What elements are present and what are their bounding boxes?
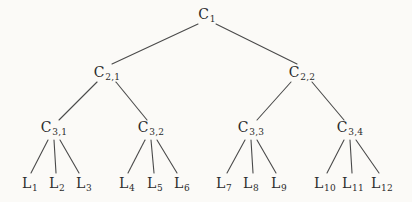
node-base-label: C xyxy=(94,64,105,80)
tree-edge-C3-4-L10 xyxy=(327,140,344,173)
tree-node-L7: L7 xyxy=(216,176,232,193)
node-subscript: 2 xyxy=(59,183,65,193)
node-base-label: L xyxy=(271,175,281,191)
tree-node-C1: C1 xyxy=(198,7,215,24)
node-base-label: L xyxy=(216,175,226,191)
tree-node-C2-1: C2,1 xyxy=(94,65,120,82)
node-subscript: 1 xyxy=(32,183,38,193)
node-subscript: 9 xyxy=(281,183,287,193)
tree-edge-C3-3-L8 xyxy=(251,140,253,173)
node-base-label: L xyxy=(314,175,324,191)
tree-edge-C3-1-L2 xyxy=(54,140,56,173)
node-subscript: 10 xyxy=(324,183,336,193)
node-base-label: L xyxy=(49,175,59,191)
tree-edge-C1-C2-1 xyxy=(112,24,198,64)
node-base-label: C xyxy=(198,6,209,22)
tree-node-C3-4: C3,4 xyxy=(337,120,363,137)
tree-node-L2: L2 xyxy=(49,176,65,193)
node-base-label: C xyxy=(289,64,300,80)
tree-edge-C2-2-C3-4 xyxy=(312,82,344,120)
tree-node-C3-3: C3,3 xyxy=(238,120,264,137)
tree-edge-C3-2-L5 xyxy=(151,140,154,173)
node-base-label: L xyxy=(119,175,129,191)
node-subscript: 12 xyxy=(381,183,393,193)
tree-node-L1: L1 xyxy=(22,176,38,193)
tree-node-L8: L8 xyxy=(243,176,259,193)
node-subscript: 4 xyxy=(129,183,135,193)
node-subscript: 5 xyxy=(157,183,163,193)
tree-node-L4: L4 xyxy=(119,176,135,193)
node-subscript: 3,2 xyxy=(149,127,164,137)
node-subscript: 6 xyxy=(184,183,190,193)
tree-node-L6: L6 xyxy=(174,176,190,193)
tree-edge-C3-4-L12 xyxy=(356,140,379,173)
tree-node-C3-2: C3,2 xyxy=(138,120,164,137)
node-subscript: 3,1 xyxy=(52,127,67,137)
tree-edge-C1-C2-2 xyxy=(216,24,297,64)
node-base-label: L xyxy=(76,175,86,191)
tree-node-L12: L12 xyxy=(371,176,393,193)
tree-node-L5: L5 xyxy=(147,176,163,193)
node-subscript: 11 xyxy=(352,183,364,193)
tree-edge-C2-1-C3-1 xyxy=(59,82,97,120)
tree-node-C3-1: C3,1 xyxy=(41,120,67,137)
tree-edge-C3-2-L4 xyxy=(128,140,145,173)
node-base-label: L xyxy=(174,175,184,191)
node-base-label: L xyxy=(342,175,352,191)
tree-edge-C3-2-L6 xyxy=(157,140,177,173)
node-subscript: 7 xyxy=(226,183,232,193)
node-subscript: 1 xyxy=(210,14,216,24)
tree-node-L10: L10 xyxy=(314,176,336,193)
tree-edge-C2-1-C3-2 xyxy=(116,82,147,120)
node-base-label: L xyxy=(243,175,253,191)
tree-node-C2-2: C2,2 xyxy=(289,65,315,82)
node-base-label: C xyxy=(41,119,52,135)
node-base-label: L xyxy=(22,175,32,191)
node-subscript: 2,1 xyxy=(105,72,120,82)
node-subscript: 2,2 xyxy=(300,72,315,82)
tree-node-L11: L11 xyxy=(342,176,364,193)
node-subscript: 3,4 xyxy=(348,127,363,137)
tree-edges-layer xyxy=(0,0,412,202)
node-base-label: C xyxy=(337,119,348,135)
tree-edge-C3-4-L11 xyxy=(350,140,352,173)
tree-edge-C3-3-L9 xyxy=(257,140,276,173)
tree-edge-C3-1-L3 xyxy=(60,140,79,173)
tree-edge-C3-3-L7 xyxy=(227,140,245,173)
node-subscript: 3,3 xyxy=(249,127,264,137)
node-base-label: L xyxy=(371,175,381,191)
tree-edge-C2-2-C3-3 xyxy=(257,82,291,120)
tree-node-L9: L9 xyxy=(271,176,287,193)
node-subscript: 3 xyxy=(86,183,92,193)
tree-node-L3: L3 xyxy=(76,176,92,193)
node-base-label: C xyxy=(138,119,149,135)
node-subscript: 8 xyxy=(253,183,259,193)
tree-edge-C3-1-L1 xyxy=(31,140,48,173)
node-base-label: C xyxy=(238,119,249,135)
node-base-label: L xyxy=(147,175,157,191)
tree-diagram: C1C2,1C2,2C3,1C3,2C3,3C3,4L1L2L3L4L5L6L7… xyxy=(0,0,412,202)
